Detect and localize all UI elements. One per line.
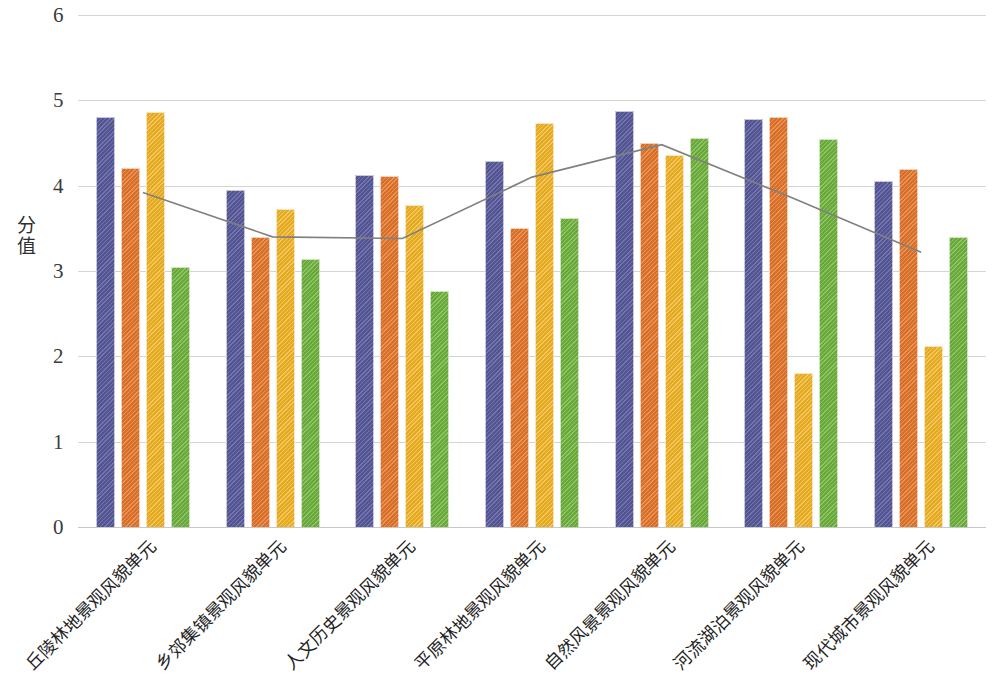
bar-series-2[interactable] bbox=[251, 237, 270, 527]
bar-series-1[interactable] bbox=[355, 175, 374, 527]
bar-series-4[interactable] bbox=[690, 138, 709, 527]
bar-series-1[interactable] bbox=[744, 119, 763, 527]
y-tick-label: 6 bbox=[53, 3, 64, 28]
bar-series-3[interactable] bbox=[665, 155, 684, 527]
bar-group bbox=[208, 15, 338, 527]
bar-group-bars bbox=[78, 15, 208, 527]
plot-area bbox=[78, 15, 986, 527]
bar-group bbox=[856, 15, 986, 527]
bar-series-2[interactable] bbox=[769, 117, 788, 527]
bar-series-2[interactable] bbox=[380, 176, 399, 527]
x-axis-label: 自然风景景观风貌单元 bbox=[538, 533, 679, 674]
bar-group-bars bbox=[467, 15, 597, 527]
bar-series-2[interactable] bbox=[899, 169, 918, 527]
y-tick-label: 5 bbox=[53, 88, 64, 113]
x-axis-label: 丘陵林地景观风貌单元 bbox=[19, 533, 160, 674]
x-axis-label: 乡郊集镇景观风貌单元 bbox=[149, 533, 290, 674]
bar-series-4[interactable] bbox=[301, 259, 320, 527]
bar-series-3[interactable] bbox=[405, 205, 424, 527]
bar-series-4[interactable] bbox=[819, 139, 838, 527]
y-tick-label: 2 bbox=[53, 344, 64, 369]
bar-groups bbox=[78, 15, 986, 527]
bar-group bbox=[337, 15, 467, 527]
y-tick-label: 1 bbox=[53, 429, 64, 454]
bar-series-1[interactable] bbox=[96, 117, 115, 527]
chart-container: 分值 0123456 丘陵林地景观风貌单元乡郊集镇景观风貌单元人文历史景观风貌单… bbox=[0, 0, 994, 688]
bar-series-2[interactable] bbox=[640, 143, 659, 527]
bar-series-3[interactable] bbox=[146, 112, 165, 527]
bar-series-2[interactable] bbox=[121, 168, 140, 527]
bar-series-4[interactable] bbox=[171, 267, 190, 527]
bar-series-1[interactable] bbox=[485, 161, 504, 527]
x-axis-label: 河流湖泊景观风貌单元 bbox=[668, 533, 809, 674]
bar-group bbox=[467, 15, 597, 527]
bar-group-bars bbox=[208, 15, 338, 527]
bar-group-bars bbox=[856, 15, 986, 527]
bar-series-2[interactable] bbox=[510, 228, 529, 527]
bar-series-4[interactable] bbox=[560, 218, 579, 527]
y-axis-tick-labels: 0123456 bbox=[0, 0, 78, 542]
bar-series-1[interactable] bbox=[874, 181, 893, 527]
y-tick-label: 4 bbox=[53, 173, 64, 198]
x-axis-labels: 丘陵林地景观风貌单元乡郊集镇景观风貌单元人文历史景观风貌单元平原林地景观风貌单元… bbox=[78, 527, 986, 688]
x-axis-label: 平原林地景观风貌单元 bbox=[408, 533, 549, 674]
bar-group-bars bbox=[337, 15, 467, 527]
y-tick-label: 0 bbox=[53, 515, 64, 540]
bar-series-3[interactable] bbox=[535, 123, 554, 527]
bar-series-1[interactable] bbox=[226, 190, 245, 527]
bar-series-4[interactable] bbox=[949, 237, 968, 527]
bar-series-1[interactable] bbox=[615, 111, 634, 527]
bar-group-bars bbox=[727, 15, 857, 527]
bar-series-4[interactable] bbox=[430, 291, 449, 527]
x-axis-label: 现代城市景观风貌单元 bbox=[797, 533, 938, 674]
bar-group bbox=[597, 15, 727, 527]
x-axis-label: 人文历史景观风貌单元 bbox=[279, 533, 420, 674]
bar-group-bars bbox=[597, 15, 727, 527]
bar-group bbox=[727, 15, 857, 527]
bar-group bbox=[78, 15, 208, 527]
bar-series-3[interactable] bbox=[276, 209, 295, 527]
bar-series-3[interactable] bbox=[794, 373, 813, 527]
bar-series-3[interactable] bbox=[924, 346, 943, 527]
y-tick-label: 3 bbox=[53, 259, 64, 284]
